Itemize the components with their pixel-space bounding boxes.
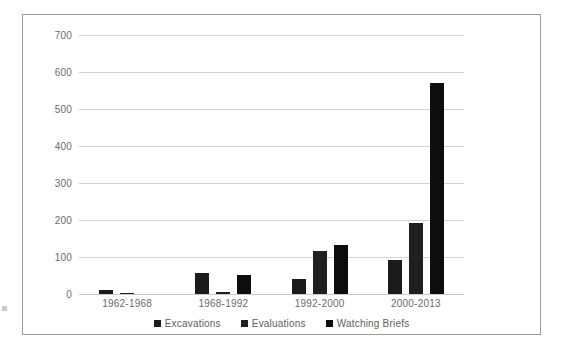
- y-tick-label: 600: [55, 67, 72, 78]
- x-axis-label: 1962-1968: [102, 298, 152, 309]
- bar[interactable]: [313, 251, 327, 294]
- legend-item[interactable]: Excavations: [154, 318, 221, 329]
- x-axis-label: 2000-2013: [391, 298, 441, 309]
- x-axis-label: 1968-1992: [199, 298, 249, 309]
- y-tick-label: 700: [55, 30, 72, 41]
- bar[interactable]: [237, 275, 251, 294]
- y-tick-label: 0: [66, 289, 72, 300]
- x-axis-labels: 1962-19681968-19921992-20002000-2013: [79, 298, 464, 314]
- bar-group: [368, 35, 464, 294]
- bar[interactable]: [120, 293, 134, 294]
- page-edge-mark: [2, 306, 7, 311]
- bar-series-container: [79, 35, 464, 294]
- y-tick-label: 100: [55, 252, 72, 263]
- legend-label: Excavations: [165, 318, 221, 329]
- bar[interactable]: [430, 83, 444, 294]
- bar[interactable]: [99, 290, 113, 294]
- bar[interactable]: [409, 223, 423, 294]
- legend-swatch-icon: [154, 320, 161, 327]
- legend-item[interactable]: Watching Briefs: [326, 318, 410, 329]
- bar-group: [272, 35, 368, 294]
- plot-area: 0100200300400500600700: [79, 35, 464, 294]
- bar-group: [79, 35, 175, 294]
- y-tick-label: 300: [55, 178, 72, 189]
- axis-line-zero: [79, 294, 464, 295]
- y-tick-label: 500: [55, 104, 72, 115]
- bar[interactable]: [216, 292, 230, 294]
- bar[interactable]: [292, 279, 306, 294]
- bar[interactable]: [334, 245, 348, 294]
- legend-label: Evaluations: [252, 318, 306, 329]
- chart-frame: 0100200300400500600700 1962-19681968-199…: [22, 14, 541, 335]
- bar-group: [175, 35, 271, 294]
- bar[interactable]: [388, 260, 402, 294]
- chart-plot-wrapper: 0100200300400500600700 1962-19681968-199…: [23, 15, 540, 334]
- legend-swatch-icon: [241, 320, 248, 327]
- chart-legend: ExcavationsEvaluationsWatching Briefs: [23, 318, 540, 329]
- bar[interactable]: [195, 273, 209, 294]
- y-tick-label: 200: [55, 215, 72, 226]
- legend-swatch-icon: [326, 320, 333, 327]
- x-axis-label: 1992-2000: [295, 298, 345, 309]
- y-tick-label: 400: [55, 141, 72, 152]
- legend-label: Watching Briefs: [337, 318, 410, 329]
- legend-item[interactable]: Evaluations: [241, 318, 306, 329]
